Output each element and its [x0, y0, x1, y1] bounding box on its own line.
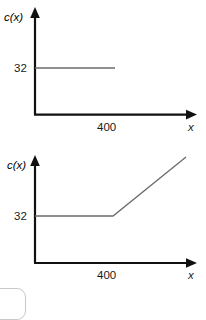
chart-constant-cost: c(x) 32 400 x	[0, 0, 206, 145]
x-axis-label: x	[187, 269, 195, 281]
x-tick-label-400: 400	[97, 121, 116, 133]
chart-constant-cost-canvas: c(x) 32 400 x	[0, 0, 206, 145]
x-tick-label-400: 400	[97, 269, 116, 281]
chart-piecewise-cost: c(x) 32 400 x	[0, 145, 206, 306]
y-axis-arrowhead	[30, 155, 40, 166]
y-tick-label-32: 32	[14, 62, 27, 74]
x-axis-arrowhead	[186, 110, 197, 120]
y-axis-label: c(x)	[7, 159, 26, 171]
y-tick-label-32: 32	[14, 210, 27, 222]
y-axis-arrowhead	[30, 7, 40, 18]
x-axis-arrowhead	[186, 258, 197, 268]
y-axis-label: c(x)	[4, 11, 23, 23]
chart-piecewise-cost-canvas: c(x) 32 400 x	[0, 145, 206, 306]
x-axis-label: x	[187, 121, 195, 133]
data-series-line	[35, 157, 186, 216]
